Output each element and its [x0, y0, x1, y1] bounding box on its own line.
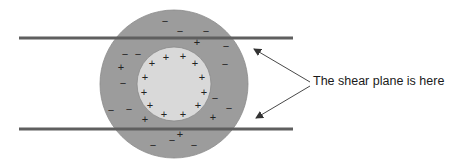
arrow-to-bottom-plane — [256, 86, 310, 118]
plus-charge-icon: + — [201, 86, 207, 98]
plus-charge-icon: + — [180, 50, 186, 62]
plus-charge-icon: + — [210, 111, 216, 123]
minus-charge-icon: − — [120, 77, 126, 89]
plus-charge-icon: + — [161, 108, 167, 120]
minus-charge-icon: − — [150, 139, 156, 151]
plus-charge-icon: + — [192, 57, 198, 69]
minus-charge-icon: − — [177, 25, 183, 37]
plus-charge-icon: + — [142, 71, 148, 83]
minus-charge-icon: − — [126, 103, 132, 115]
plus-charge-icon: + — [180, 108, 186, 120]
plus-charge-icon: + — [195, 99, 201, 111]
plus-charge-icon: + — [199, 71, 205, 83]
plus-charge-icon: + — [147, 99, 153, 111]
plus-charge-icon: + — [142, 113, 148, 125]
minus-charge-icon: − — [212, 92, 218, 104]
shear-plane-bottom-bar — [19, 128, 293, 131]
minus-charge-icon: − — [135, 48, 141, 60]
minus-charge-icon: − — [169, 134, 175, 146]
arrow-to-top-plane — [254, 49, 310, 82]
plus-charge-icon: + — [141, 86, 147, 98]
minus-charge-icon: − — [223, 40, 229, 52]
plus-charge-icon: + — [163, 51, 169, 63]
minus-charge-icon: − — [162, 15, 168, 27]
plus-charge-icon: + — [118, 61, 124, 73]
shear-plane-label: The shear plane is here — [313, 74, 444, 88]
shear-plane-top-bar — [19, 37, 293, 40]
minus-charge-icon: − — [226, 102, 232, 114]
minus-charge-icon: − — [122, 48, 128, 60]
minus-charge-icon: − — [191, 139, 197, 151]
plus-charge-icon: + — [149, 57, 155, 69]
minus-charge-icon: − — [203, 25, 209, 37]
minus-charge-icon: − — [108, 104, 114, 116]
minus-charge-icon: − — [222, 58, 228, 70]
